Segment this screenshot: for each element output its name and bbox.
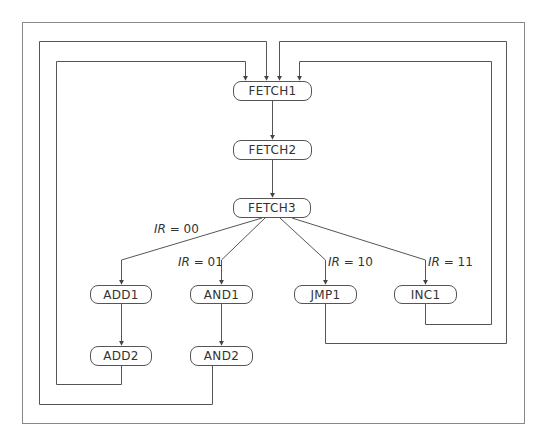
label-op: = [340,255,358,269]
label-val: 11 [458,255,473,269]
state-label: INC1 [411,288,441,302]
state-label: FETCH2 [249,143,297,157]
edge-label-ir00: IR = 00 [154,222,199,236]
label-val: 10 [358,255,373,269]
state-inc1: INC1 [394,285,457,304]
state-fetch3: FETCH3 [233,198,311,218]
state-fetch1: FETCH1 [233,81,312,101]
label-val: 01 [208,255,223,269]
state-label: JMP1 [311,288,341,302]
state-label: AND2 [204,349,239,363]
state-label: ADD1 [103,288,139,302]
label-op: = [440,255,458,269]
state-add1: ADD1 [90,285,152,304]
edge-label-ir11: IR = 11 [428,255,473,269]
state-add2: ADD2 [90,346,152,366]
label-var: IR [178,255,190,269]
edge-fetch3-inc1 [292,218,426,284]
label-op: = [190,255,208,269]
edge-label-ir01: IR = 01 [178,255,223,269]
state-label: FETCH1 [249,84,297,98]
label-var: IR [428,255,440,269]
diagram-canvas [0,0,544,445]
state-and2: AND2 [190,346,253,366]
edge-label-ir10: IR = 10 [328,255,373,269]
state-label: ADD2 [103,349,139,363]
state-fetch2: FETCH2 [233,140,312,160]
state-jmp1: JMP1 [294,285,357,304]
label-var: IR [328,255,340,269]
label-op: = [166,222,184,236]
label-val: 00 [184,222,199,236]
state-label: FETCH3 [248,201,296,215]
state-and1: AND1 [190,285,253,304]
edge-fetch3-jmp1 [280,218,326,284]
label-var: IR [154,222,166,236]
edge-add2-fetch1 [57,62,246,385]
state-label: AND1 [204,288,239,302]
